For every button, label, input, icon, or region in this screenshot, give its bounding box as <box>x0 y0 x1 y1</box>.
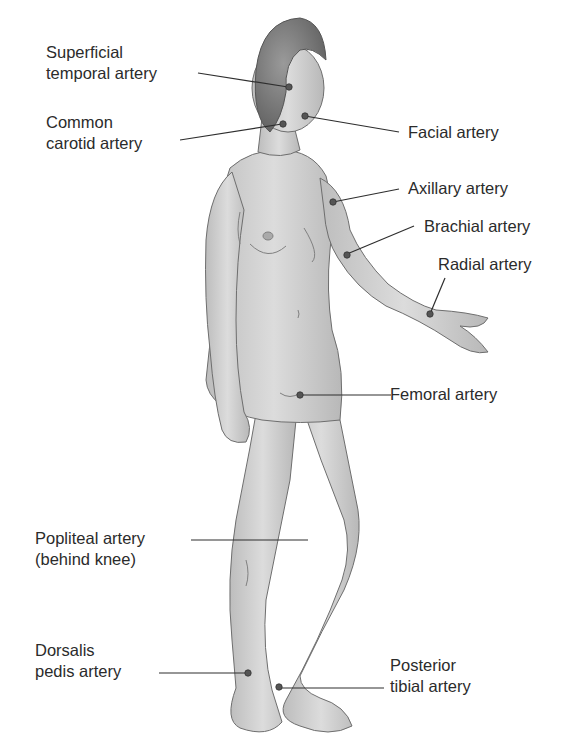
label-line: pedis artery <box>35 661 121 682</box>
pulse-dot-superficial-temporal <box>286 84 292 90</box>
label-brachial-artery: Brachial artery <box>424 216 530 237</box>
label-line: Dorsalis <box>35 640 121 661</box>
label-line: Posterior <box>390 655 471 676</box>
label-line: Femoral artery <box>390 384 497 405</box>
label-line: Brachial artery <box>424 216 530 237</box>
pulse-dot-dorsalis-pedis <box>245 670 251 676</box>
label-posterior-tibial-artery: Posterior tibial artery <box>390 655 471 697</box>
label-femoral-artery: Femoral artery <box>390 384 497 405</box>
label-line: carotid artery <box>46 133 142 154</box>
label-line: (behind knee) <box>35 549 145 570</box>
label-line: temporal artery <box>46 63 157 84</box>
label-popliteal-artery: Popliteal artery (behind knee) <box>35 528 145 570</box>
label-radial-artery: Radial artery <box>438 254 532 275</box>
label-axillary-artery: Axillary artery <box>408 178 508 199</box>
label-line: Common <box>46 112 142 133</box>
label-common-carotid-artery: Common carotid artery <box>46 112 142 154</box>
pulse-dot-facial <box>302 113 308 119</box>
pulse-dot-radial <box>427 311 433 317</box>
label-line: Popliteal artery <box>35 528 145 549</box>
label-superficial-temporal-artery: Superficial temporal artery <box>46 42 157 84</box>
label-facial-artery: Facial artery <box>408 122 499 143</box>
pulse-dot-brachial <box>344 252 350 258</box>
label-dorsalis-pedis-artery: Dorsalis pedis artery <box>35 640 121 682</box>
pulse-dot-posterior-tibial <box>276 684 282 690</box>
pulse-dot-axillary <box>330 199 336 205</box>
pulse-dot-femoral <box>297 392 303 398</box>
pulse-dot-common-carotid <box>280 121 286 127</box>
label-line: Facial artery <box>408 122 499 143</box>
label-line: Superficial <box>46 42 157 63</box>
label-line: Radial artery <box>438 254 532 275</box>
label-line: Axillary artery <box>408 178 508 199</box>
label-line: tibial artery <box>390 676 471 697</box>
